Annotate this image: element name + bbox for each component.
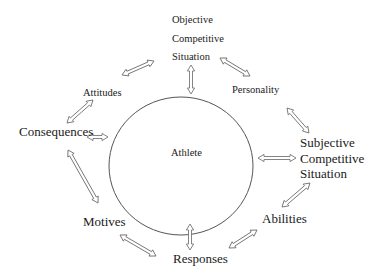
double-arrow-subjective-competitive-situation-to-abilities-icon (280, 180, 313, 209)
double-arrow-personality-to-subjective-competitive-situation-icon (284, 106, 311, 136)
personality-label: Personality (232, 85, 279, 96)
subjective-line-2: Competitive (300, 151, 364, 167)
double-arrow-athlete-to-responses-icon (186, 224, 193, 250)
subjective-competitive-situation-label: Subjective Competitive Situation (300, 135, 364, 182)
double-arrow-consequences-to-motives-icon (65, 148, 101, 205)
objective-line-3: Situation (172, 52, 224, 63)
double-arrow-athlete-to-subjective-competitive-situation-icon (258, 154, 296, 161)
athlete-label: Athlete (171, 148, 202, 159)
objective-line-1: Objective (172, 15, 224, 26)
responses-label: Responses (173, 252, 228, 265)
objective-line-2: Competitive (172, 34, 224, 45)
abilities-label: Abilities (262, 212, 307, 225)
consequences-label: Consequences (19, 125, 93, 138)
double-arrow-motives-to-responses-icon (118, 232, 158, 259)
double-arrow-objective-competitive-situation-to-attitudes-icon (121, 58, 156, 79)
double-arrow-abilities-to-responses-icon (227, 227, 259, 251)
athlete-ellipse (109, 97, 253, 235)
objective-competitive-situation-label: Objective Competitive Situation (172, 15, 224, 71)
motives-label: Motives (83, 215, 126, 228)
attitudes-label: Attitudes (83, 88, 122, 99)
subjective-line-1: Subjective (300, 135, 364, 151)
double-arrow-attitudes-to-consequences-icon (65, 97, 96, 125)
subjective-line-3: Situation (300, 166, 364, 182)
diagram-canvas: Objective Competitive Situation Attitude… (0, 0, 372, 273)
